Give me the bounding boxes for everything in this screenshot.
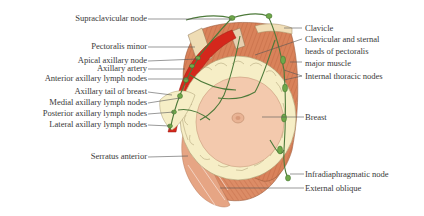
label-pectoralis-major-line1: Clavicular and sternal xyxy=(305,35,379,44)
label-clavicle: Clavicle xyxy=(305,24,333,33)
label-axillary-tail-of-breast: Axillary tail of breast xyxy=(74,87,147,96)
label-lateral-axillary-lymph-nodes: Lateral axillary lymph nodes xyxy=(49,120,147,129)
label-breast: Breast xyxy=(305,113,327,122)
label-serratus-anterior: Serratus anterior xyxy=(91,152,147,161)
label-pectoralis-minor: Pectoralis minor xyxy=(91,42,147,51)
label-supraclavicular-node: Supraclavicular node xyxy=(75,14,147,23)
label-medial-axillary-lymph-nodes: Medial axillary lymph nodes xyxy=(49,98,147,107)
label-anterior-axillary-lymph-nodes: Anterior axillary lymph nodes xyxy=(45,74,147,83)
label-pectoralis-major-line3: major muscle xyxy=(305,59,351,68)
breast-tissue xyxy=(196,77,284,167)
label-infradiaphragmatic-node: Infradiaphragmatic node xyxy=(305,170,389,179)
label-axillary-artery: Axillary artery xyxy=(97,64,147,73)
label-posterior-axillary-lymph-nodes: Posterior axillary lymph nodes xyxy=(43,109,147,118)
label-pectoralis-major-line2: heads of pectoralis xyxy=(305,47,368,56)
label-internal-thoracic-nodes: Internal thoracic nodes xyxy=(305,72,383,81)
label-external-oblique: External oblique xyxy=(305,184,361,193)
